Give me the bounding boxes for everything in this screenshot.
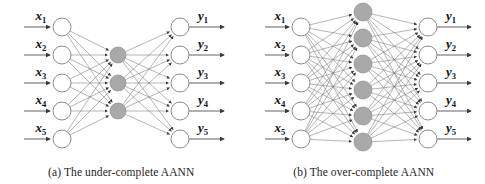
hidden-node-3 bbox=[354, 55, 372, 73]
input-label-5: x5 bbox=[35, 120, 47, 137]
edge-hidden-output bbox=[123, 36, 173, 104]
input-label-5: x5 bbox=[273, 120, 285, 137]
output-node-3 bbox=[171, 74, 189, 92]
edge-hidden-output bbox=[126, 58, 170, 78]
panel-a-diagram: x1x2x3x4x5y1y2y3y4y5 bbox=[0, 0, 242, 160]
edge-input-hidden bbox=[309, 15, 351, 25]
output-label-1: y1 bbox=[196, 8, 208, 25]
input-label-3: x3 bbox=[273, 64, 285, 81]
panel-b-caption: (b) The over-complete AANN bbox=[243, 166, 485, 178]
output-label-5: y5 bbox=[196, 120, 208, 137]
hidden-node-1 bbox=[354, 3, 372, 21]
edge-hidden-output bbox=[372, 140, 416, 142]
edge-hidden-output bbox=[126, 86, 170, 106]
input-node-1 bbox=[292, 18, 310, 36]
edge-input-hidden bbox=[70, 87, 108, 106]
panel-b-diagram: x1x2x3x4x5y1y2y3y4y5 bbox=[243, 0, 485, 160]
input-label-2: x2 bbox=[35, 36, 47, 53]
output-label-4: y4 bbox=[196, 92, 209, 109]
edge-input-hidden bbox=[70, 60, 108, 79]
hidden-node-6 bbox=[354, 133, 372, 151]
output-label-5: y5 bbox=[444, 120, 456, 137]
figure-container: x1x2x3x4x5y1y2y3y4y5 (a) The under-compl… bbox=[0, 0, 485, 184]
edge-hidden-output bbox=[371, 33, 418, 60]
edge-hidden-output bbox=[371, 116, 417, 138]
hidden-node-2 bbox=[354, 29, 372, 47]
output-node-5 bbox=[419, 130, 437, 148]
edge-input-hidden bbox=[306, 62, 356, 132]
edge-hidden-output bbox=[372, 14, 417, 24]
output-node-4 bbox=[171, 102, 189, 120]
output-node-2 bbox=[171, 46, 189, 64]
input-label-4: x4 bbox=[35, 92, 48, 109]
edge-input-hidden bbox=[67, 34, 112, 102]
edge-hidden-output bbox=[369, 91, 419, 136]
input-node-3 bbox=[292, 74, 310, 92]
edge-hidden-output bbox=[126, 60, 170, 80]
input-label-1: x1 bbox=[35, 8, 47, 25]
output-node-2 bbox=[419, 46, 437, 64]
panel-a-caption: (a) The under-complete AANN bbox=[0, 166, 243, 178]
input-label-4: x4 bbox=[273, 92, 286, 109]
edge-hidden-output bbox=[368, 46, 422, 130]
hidden-node-3 bbox=[110, 103, 126, 119]
input-node-2 bbox=[53, 46, 71, 64]
input-node-1 bbox=[53, 18, 71, 36]
edge-input-hidden bbox=[309, 94, 351, 108]
output-label-1: y1 bbox=[444, 8, 456, 25]
output-node-5 bbox=[171, 130, 189, 148]
edge-hidden-output bbox=[124, 60, 171, 103]
input-node-2 bbox=[292, 46, 310, 64]
input-node-5 bbox=[53, 130, 71, 148]
edge-hidden-output bbox=[367, 37, 422, 134]
panel-b-over-complete: x1x2x3x4x5y1y2y3y4y5 (b) The over-comple… bbox=[243, 0, 485, 184]
edge-hidden-output bbox=[126, 88, 170, 108]
input-node-5 bbox=[292, 130, 310, 148]
input-label-1: x1 bbox=[273, 8, 285, 25]
input-label-2: x2 bbox=[273, 36, 285, 53]
edge-input-hidden bbox=[310, 139, 351, 141]
edge-input-hidden bbox=[306, 73, 355, 132]
edge-input-hidden bbox=[67, 64, 112, 132]
output-label-2: y2 bbox=[196, 36, 208, 53]
output-label-2: y2 bbox=[444, 36, 456, 53]
input-node-4 bbox=[53, 102, 71, 120]
edge-hidden-output bbox=[126, 32, 170, 52]
output-label-4: y4 bbox=[444, 92, 457, 109]
output-node-4 bbox=[419, 102, 437, 120]
output-label-3: y3 bbox=[196, 64, 208, 81]
output-node-3 bbox=[419, 74, 437, 92]
edge-hidden-output bbox=[372, 29, 417, 37]
edge-hidden-output bbox=[368, 64, 421, 134]
input-label-3: x3 bbox=[35, 64, 47, 81]
panel-a-under-complete: x1x2x3x4x5y1y2y3y4y5 (a) The under-compl… bbox=[0, 0, 243, 184]
hidden-node-5 bbox=[354, 107, 372, 125]
edge-hidden-output bbox=[367, 20, 423, 129]
hidden-node-1 bbox=[110, 47, 126, 63]
hidden-node-2 bbox=[110, 75, 126, 91]
edge-hidden-output bbox=[368, 20, 422, 102]
output-node-1 bbox=[171, 18, 189, 36]
output-node-1 bbox=[419, 18, 437, 36]
edge-hidden-output bbox=[126, 114, 170, 134]
input-node-4 bbox=[292, 102, 310, 120]
input-node-3 bbox=[53, 74, 71, 92]
edge-input-hidden bbox=[308, 45, 353, 78]
edge-input-hidden bbox=[307, 33, 355, 81]
output-label-3: y3 bbox=[444, 64, 456, 81]
hidden-node-4 bbox=[354, 81, 372, 99]
edge-hidden-output bbox=[124, 63, 171, 106]
